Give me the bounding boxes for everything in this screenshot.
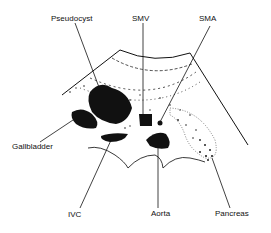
aorta-label: Aorta (151, 210, 170, 218)
pancreas-label: Pancreas (215, 210, 249, 218)
pseudocyst-label: Pseudocyst (51, 15, 92, 23)
leader-lines (40, 23, 230, 208)
smv-label: SMV (132, 15, 149, 23)
sma-label: SMA (199, 15, 216, 23)
smv-shape (139, 114, 152, 126)
ivc-shape (101, 133, 128, 142)
gallbladder-label: Gallbladder (12, 143, 53, 151)
ivc-label: IVC (68, 211, 81, 219)
vertebra-outline (88, 147, 205, 168)
ultrasound-diagram (0, 0, 271, 233)
